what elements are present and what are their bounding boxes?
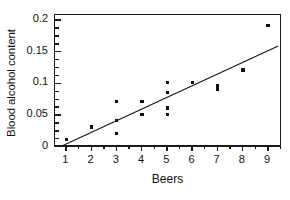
x-tick-major [116, 145, 117, 151]
y-tick-major [55, 51, 61, 52]
x-axis-title: Beers [54, 172, 281, 186]
data-point [241, 68, 244, 71]
data-point [166, 106, 169, 109]
x-tick-minor [128, 145, 129, 149]
data-point [266, 24, 269, 27]
x-tick-label: 7 [207, 153, 227, 165]
y-tick-major [55, 114, 61, 115]
y-tick-minor [55, 75, 59, 76]
data-point [115, 119, 118, 122]
x-tick-major [91, 145, 92, 151]
data-point [115, 100, 118, 103]
scatter-plot-figure: Blood alcohol content 00.050.10.150.2 12… [0, 0, 290, 200]
data-point [166, 113, 169, 116]
x-tick-minor [154, 145, 155, 149]
y-tick-minor [55, 59, 59, 60]
y-axis-tick-labels: 00.050.10.150.2 [18, 0, 48, 200]
x-tick-label: 6 [181, 153, 201, 165]
x-tick-major [242, 145, 243, 151]
data-point [166, 81, 169, 84]
x-tick-label: 8 [232, 153, 252, 165]
x-tick-minor [255, 145, 256, 149]
y-tick-minor [55, 130, 59, 131]
data-point [140, 113, 143, 116]
y-tick-major [55, 19, 61, 20]
x-tick-major [141, 145, 142, 151]
x-tick-minor [204, 145, 205, 149]
x-tick-minor [78, 145, 79, 149]
data-point [140, 100, 143, 103]
x-tick-label: 2 [81, 153, 101, 165]
x-tick-label: 9 [257, 153, 277, 165]
y-tick-minor [55, 138, 59, 139]
x-axis-tick-labels: 123456789 [54, 153, 281, 167]
y-tick-label: 0.2 [18, 13, 48, 24]
y-tick-minor [55, 43, 59, 44]
x-tick-label: 1 [55, 153, 75, 165]
data-point [90, 125, 93, 128]
x-tick-minor [280, 145, 281, 149]
x-tick-major [65, 145, 66, 151]
y-tick-label: 0.15 [18, 45, 48, 56]
y-tick-label: 0 [18, 140, 48, 151]
y-tick-label: 0.05 [18, 108, 48, 119]
y-tick-minor [55, 99, 59, 100]
y-tick-minor [55, 91, 59, 92]
x-axis-ticks [54, 145, 281, 153]
y-tick-label: 0.1 [18, 76, 48, 87]
x-tick-major [267, 145, 268, 151]
y-tick-minor [55, 122, 59, 123]
x-tick-major [191, 145, 192, 151]
x-tick-major [217, 145, 218, 151]
x-tick-minor [103, 145, 104, 149]
regression-line [62, 46, 278, 146]
x-tick-major [166, 145, 167, 151]
x-tick-minor [179, 145, 180, 149]
regression-line-layer [55, 15, 280, 145]
x-tick-minor [229, 145, 230, 149]
y-tick-minor [55, 106, 59, 107]
x-tick-label: 4 [131, 153, 151, 165]
x-tick-label: 5 [156, 153, 176, 165]
data-point [216, 87, 219, 90]
data-point [166, 91, 169, 94]
x-tick-label: 3 [106, 153, 126, 165]
data-point [65, 138, 68, 141]
data-point [191, 81, 194, 84]
y-tick-minor [55, 27, 59, 28]
data-point [115, 132, 118, 135]
y-tick-minor [55, 67, 59, 68]
y-tick-major [55, 83, 61, 84]
y-tick-minor [55, 35, 59, 36]
plot-area [54, 14, 281, 145]
